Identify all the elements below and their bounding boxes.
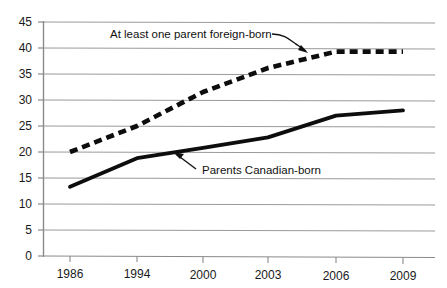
y-tick-label-20: 20 xyxy=(6,146,32,158)
y-tick-label-30: 30 xyxy=(6,94,32,106)
x-tick-label-2003: 2003 xyxy=(245,269,291,281)
x-tick-label-2009: 2009 xyxy=(380,270,426,282)
annotation-arrow-foreign-born xyxy=(272,34,308,53)
line-chart: 45 40 35 30 25 20 15 10 5 0 1986 1994 20… xyxy=(0,0,447,288)
y-tick-label-40: 40 xyxy=(6,42,32,54)
y-tick-label-25: 25 xyxy=(6,120,32,132)
y-tick-label-15: 15 xyxy=(6,172,32,184)
x-tick-label-1994: 1994 xyxy=(114,268,160,280)
y-tick-label-0: 0 xyxy=(6,250,32,262)
y-tick-label-10: 10 xyxy=(6,198,32,210)
y-tick-marks xyxy=(38,22,43,256)
x-tick-label-1986: 1986 xyxy=(47,268,93,280)
series-line-foreign-born xyxy=(70,52,403,152)
chart-canvas xyxy=(0,0,447,288)
series-label-canadian-born: Parents Canadian-born xyxy=(202,164,321,176)
y-tick-label-35: 35 xyxy=(6,68,32,80)
y-tick-label-45: 45 xyxy=(6,16,32,28)
y-tick-label-5: 5 xyxy=(6,224,32,236)
x-tick-label-2006: 2006 xyxy=(313,270,359,282)
annotation-arrow-canadian-born xyxy=(173,152,196,169)
series-label-foreign-born: At least one parent foreign-born xyxy=(110,28,272,40)
x-tick-label-2000: 2000 xyxy=(180,269,226,281)
x-axis-line xyxy=(43,256,435,258)
